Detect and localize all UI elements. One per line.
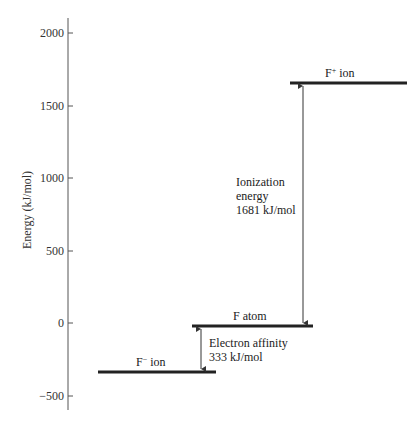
tick-label-2000: 2000 [40, 26, 64, 40]
label-f-atom: F atom [233, 309, 267, 323]
svg-text:Ionization: Ionization [236, 175, 285, 189]
y-tick-labels: 2000 1500 1000 500 0 −500 [39, 26, 64, 403]
tick-label-1000: 1000 [40, 171, 64, 185]
svg-text:333 kJ/mol: 333 kJ/mol [209, 350, 263, 364]
label-f-minus-ion: F− ion [136, 355, 166, 369]
svg-text:1681 kJ/mol: 1681 kJ/mol [236, 203, 296, 217]
tick-label-500: 500 [46, 244, 64, 258]
y-axis-title: Energy (kJ/mol) [20, 171, 34, 249]
tick-label-neg500: −500 [39, 389, 64, 403]
tick-label-0: 0 [58, 316, 64, 330]
ionization-energy-annotation: Ionization energy 1681 kJ/mol [236, 175, 296, 217]
y-ticks [68, 33, 73, 396]
label-f-plus-ion: F+ ion [325, 66, 355, 80]
tick-label-1500: 1500 [40, 99, 64, 113]
electron-affinity-annotation: Electron affinity 333 kJ/mol [209, 336, 288, 364]
svg-text:Electron affinity: Electron affinity [209, 336, 288, 350]
energy-diagram: 2000 1500 1000 500 0 −500 Energy (kJ/mol… [0, 0, 411, 426]
svg-text:energy: energy [236, 189, 268, 203]
